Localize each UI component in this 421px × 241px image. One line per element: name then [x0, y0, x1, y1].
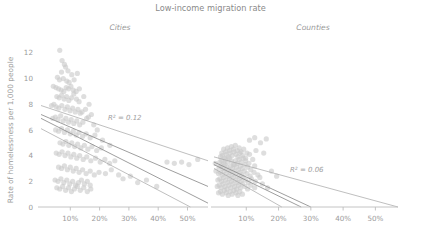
x-tick-label: 50%	[179, 214, 195, 223]
data-point	[247, 152, 252, 157]
data-point	[84, 154, 89, 159]
data-point	[59, 70, 64, 75]
y-tick-label: 6	[28, 126, 33, 135]
data-point	[120, 176, 125, 181]
data-point	[252, 185, 257, 190]
data-point	[88, 168, 93, 173]
data-point	[186, 162, 191, 167]
data-point	[264, 136, 269, 141]
data-point	[69, 72, 74, 77]
chart-root: Low-income migration rate Rate of homele…	[0, 0, 421, 241]
x-tick-label: 30%	[303, 214, 319, 223]
chart-title: Low-income migration rate	[155, 3, 265, 13]
data-point	[95, 127, 100, 132]
x-tick-label: 40%	[335, 214, 351, 223]
data-point	[96, 170, 101, 175]
data-point	[135, 180, 140, 185]
data-point	[76, 99, 81, 104]
data-point	[82, 143, 87, 148]
data-point	[258, 140, 263, 145]
r2-annotation-cities: R² = 0.12	[108, 114, 142, 122]
data-point	[65, 68, 70, 73]
data-point	[172, 161, 177, 166]
data-point	[80, 120, 85, 125]
data-point	[250, 157, 255, 162]
y-tick-label: 2	[28, 177, 33, 186]
data-point	[77, 153, 82, 158]
data-point	[80, 167, 85, 172]
data-point	[247, 138, 252, 143]
data-point	[58, 113, 63, 118]
y-tick-label: 10	[24, 74, 34, 83]
scatter-chart: Low-income migration rate Rate of homele…	[0, 0, 421, 241]
data-point	[72, 77, 77, 82]
data-point	[86, 114, 91, 119]
x-tick-label: 20%	[92, 214, 108, 223]
points-counties	[213, 135, 280, 198]
panels-group: Cities10%20%30%40%50%024681012R² = 0.12C…	[24, 23, 398, 223]
r2-annotation-counties: R² = 0.06	[290, 166, 324, 174]
data-point	[257, 175, 262, 180]
data-point	[88, 186, 93, 191]
y-tick-label: 4	[28, 151, 33, 160]
data-point	[164, 159, 169, 164]
panel-label-counties: Counties	[296, 23, 329, 32]
y-tick-label: 12	[24, 48, 33, 57]
y-axis-title: Rate of homelessness per 1,000 people	[6, 56, 15, 203]
data-point	[75, 71, 80, 76]
data-point	[253, 148, 258, 153]
panel-label-cities: Cities	[109, 23, 130, 32]
data-point	[261, 150, 266, 155]
data-point	[240, 192, 245, 197]
data-point	[144, 177, 149, 182]
y-tick-label: 8	[28, 100, 33, 109]
x-tick-label: 40%	[150, 214, 166, 223]
data-point	[77, 86, 82, 91]
data-point	[86, 102, 91, 107]
data-point	[94, 148, 99, 153]
data-point	[88, 158, 93, 163]
data-point	[112, 158, 117, 163]
regression-line-fit-b	[41, 115, 208, 187]
data-point	[79, 109, 84, 114]
data-point	[252, 135, 257, 140]
data-point	[109, 167, 114, 172]
data-point	[103, 171, 108, 176]
data-point	[81, 94, 86, 99]
data-point	[81, 185, 86, 190]
x-tick-label: 50%	[367, 214, 383, 223]
data-point	[116, 172, 121, 177]
x-tick-label: 30%	[121, 214, 137, 223]
panel-cities: Cities10%20%30%40%50%024681012R² = 0.12	[24, 23, 208, 223]
data-point	[179, 159, 184, 164]
y-tick-label: 0	[28, 203, 33, 212]
x-tick-label: 10%	[62, 214, 78, 223]
data-point	[57, 48, 62, 53]
panel-counties: Counties10%20%30%40%50%R² = 0.06	[211, 23, 398, 223]
x-tick-label: 10%	[238, 214, 254, 223]
data-point	[71, 91, 76, 96]
data-point	[92, 172, 97, 177]
x-tick-label: 20%	[271, 214, 287, 223]
